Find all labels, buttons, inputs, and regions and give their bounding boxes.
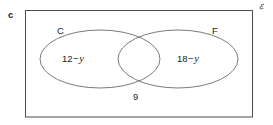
region-f-prefix: 18 bbox=[177, 53, 188, 64]
set-c-ellipse bbox=[40, 30, 160, 88]
venn-geometry bbox=[0, 0, 273, 125]
region-c-variable: y bbox=[79, 53, 84, 64]
region-value-intersection: 9 bbox=[133, 92, 138, 102]
region-f-variable: y bbox=[194, 53, 199, 64]
set-label-f: F bbox=[212, 26, 218, 36]
region-value-c-only: 12−y bbox=[62, 54, 84, 65]
set-label-c: C bbox=[57, 26, 64, 36]
region-c-prefix: 12 bbox=[62, 53, 73, 64]
venn-diagram-figure: c ℰ C F 12−y 18−y 9 bbox=[0, 0, 273, 125]
region-value-f-only: 18−y bbox=[177, 54, 199, 65]
